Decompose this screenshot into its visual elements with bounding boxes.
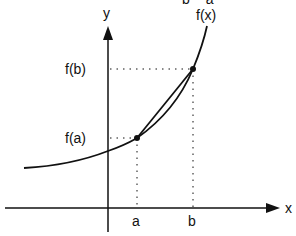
- a-label: a: [132, 213, 140, 229]
- point-b: [190, 66, 196, 72]
- fa-label: f(a): [65, 130, 86, 146]
- y-axis-arrow-icon: [103, 26, 113, 40]
- secant-line: [137, 69, 193, 138]
- fb-label: f(b): [65, 61, 86, 77]
- x-axis-label: x: [285, 200, 292, 216]
- secant-line-diagram: b − a x y f(x) f(b) f(a) a b: [0, 0, 296, 236]
- curve-label: f(x): [196, 7, 216, 23]
- y-axis-label: y: [103, 5, 110, 21]
- top-cut-text: b − a: [182, 0, 214, 7]
- b-label: b: [188, 213, 196, 229]
- function-curve: [24, 26, 207, 168]
- point-a: [134, 135, 140, 141]
- x-axis-arrow-icon: [266, 203, 280, 213]
